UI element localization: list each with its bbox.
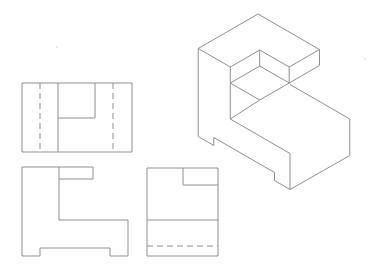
top-view — [22, 83, 132, 152]
paper-speck — [364, 58, 366, 60]
isometric-view — [198, 14, 350, 190]
front-view — [22, 167, 128, 256]
drawing-svg — [0, 0, 372, 269]
side-view — [147, 168, 218, 256]
drawing-page — [0, 0, 372, 269]
paper-speck — [56, 46, 58, 48]
